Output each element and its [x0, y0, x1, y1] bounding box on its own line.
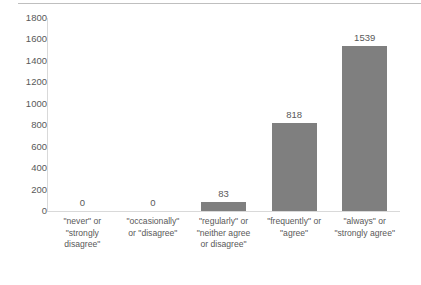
y-axis-tick-label: 800 [3, 120, 47, 130]
bar[interactable] [201, 202, 246, 211]
y-axis-tick-labels: 180016001400120010008006004002000 [0, 0, 47, 285]
bar[interactable] [272, 123, 317, 211]
bar[interactable] [342, 46, 387, 211]
bar-value-label: 83 [189, 189, 258, 199]
x-axis-category-label-line: "strongly [43, 228, 121, 240]
y-axis-tick-label: 1000 [3, 99, 47, 109]
y-axis-tick-label: 1200 [3, 78, 47, 88]
y-axis-tick-label: 200 [3, 185, 47, 195]
x-axis-category-labels: "never" or"stronglydisagree""occasionall… [47, 216, 400, 282]
bar-chart: 180016001400120010008006004002000 008381… [0, 0, 421, 285]
bar-value-label: 0 [118, 198, 187, 208]
y-axis-tick-label: 1800 [3, 13, 47, 23]
y-axis-tick-label: 1400 [3, 56, 47, 66]
x-axis-category-label-line: "never" or [43, 216, 121, 228]
x-axis-category-label-line: "agree" [255, 228, 333, 240]
bar-value-label: 818 [260, 110, 329, 120]
x-axis-category-label: "occasionally"or "disagree" [114, 216, 192, 239]
x-axis-category-label: "always" or"strongly agree" [326, 216, 404, 239]
x-axis-category-label-line: "neither agree [185, 228, 263, 240]
x-axis-category-label-line: "regularly" or [185, 216, 263, 228]
x-axis-category-label: "never" or"stronglydisagree" [43, 216, 121, 251]
bar-group: 0 [60, 18, 105, 211]
x-axis-category-label-line: "occasionally" [114, 216, 192, 228]
x-axis-category-label: "frequently" or"agree" [255, 216, 333, 239]
x-axis-category-label-line: or "disagree" [114, 228, 192, 240]
bar-group: 818 [272, 18, 317, 211]
x-axis-category-label-line: "frequently" or [255, 216, 333, 228]
bar-group: 83 [201, 18, 246, 211]
x-axis-category-label: "regularly" or"neither agreeor disagree" [185, 216, 263, 251]
bar-value-label: 0 [48, 198, 117, 208]
plot-area: 00838181539 [47, 18, 400, 211]
bar-value-label: 1539 [330, 33, 399, 43]
x-axis-category-label-line: "always" or [326, 216, 404, 228]
top-divider-rule [18, 3, 421, 4]
x-axis-category-label-line: "strongly agree" [326, 228, 404, 240]
y-axis-tick-label: 600 [3, 142, 47, 152]
bar-group: 0 [130, 18, 175, 211]
y-axis-tick-label: 1600 [3, 35, 47, 45]
x-axis-baseline [47, 211, 400, 212]
y-axis-tick-label: 0 [3, 206, 47, 216]
y-axis-tick-label: 400 [3, 163, 47, 173]
x-axis-category-label-line: or disagree" [185, 239, 263, 251]
x-axis-category-label-line: disagree" [43, 239, 121, 251]
bar-group: 1539 [342, 18, 387, 211]
